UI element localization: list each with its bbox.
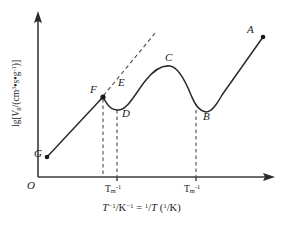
x-tick-label-1: Tm-1 [105,184,121,195]
endpoint-marker-F [100,94,105,99]
point-label-c: C [165,52,172,63]
x-axis-title: T−1/K−1 = 1/T (1/K) [0,203,283,214]
point-label-d: D [122,108,130,119]
y-axis-title: lg[Vg/(cm3•s•g-1)] [11,33,22,153]
tangent-extrapolation-line [99,32,156,101]
endpoint-marker-A [261,35,266,40]
point-label-f: F [90,84,97,95]
point-label-g: G [34,148,42,159]
point-label-e: E [118,77,125,88]
retention-curve [47,37,263,157]
origin-label: O [27,180,35,191]
x-tick-label-2: Tm-1 [184,184,200,195]
endpoint-marker-G [45,155,50,160]
point-label-b: B [203,111,210,122]
plot-figure: O A B C D E F G Tm-1 Tm-1 T−1/K−1 = 1/T … [0,0,283,233]
plot-canvas [0,0,283,233]
point-label-a: A [247,24,254,35]
